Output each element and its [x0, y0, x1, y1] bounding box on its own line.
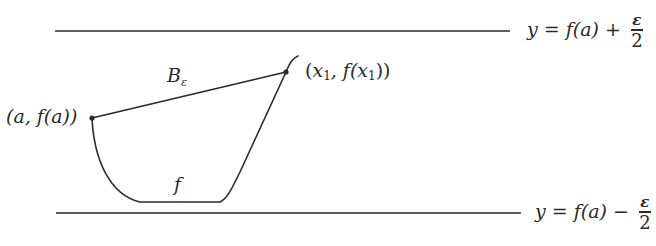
upper-eq: = — [538, 18, 566, 40]
point-x1-dot — [283, 69, 288, 74]
lower-fraction: ε2 — [639, 195, 651, 232]
point-x1-label: (x1, f(x1)) — [305, 59, 391, 83]
lower-op: − — [607, 200, 635, 222]
x1-var2: x — [357, 59, 368, 81]
point-a-label: (a, f(a)) — [6, 105, 77, 127]
ball-sub: ε — [181, 76, 187, 89]
lower-eq: = — [546, 200, 574, 222]
x1-var: x — [312, 59, 323, 81]
point-a-dot — [89, 115, 94, 120]
lower-frac-num: ε — [640, 195, 649, 211]
lower-frac-den: 2 — [639, 213, 650, 232]
x1-sub2: 1 — [368, 69, 376, 83]
function-curve — [92, 56, 298, 202]
upper-frac-den: 2 — [631, 31, 642, 50]
upper-frac-num: ε — [632, 13, 641, 29]
lower-func: f(a) — [574, 200, 607, 222]
x1-close: )) — [376, 59, 391, 81]
curve-label: f — [174, 173, 181, 195]
upper-op: + — [599, 18, 627, 40]
upper-fraction: ε2 — [631, 13, 643, 50]
upper-y: y — [527, 18, 538, 40]
x1-mid: , f( — [331, 59, 358, 81]
upper-bound-label: y = f(a) + ε2 — [527, 13, 643, 50]
lower-y: y — [535, 200, 546, 222]
x1-sub: 1 — [323, 69, 331, 83]
lower-bound-label: y = f(a) − ε2 — [535, 195, 651, 232]
ball-b: B — [167, 64, 181, 86]
chord-line — [92, 72, 286, 118]
upper-func: f(a) — [566, 18, 599, 40]
ball-label: Bε — [167, 64, 187, 89]
